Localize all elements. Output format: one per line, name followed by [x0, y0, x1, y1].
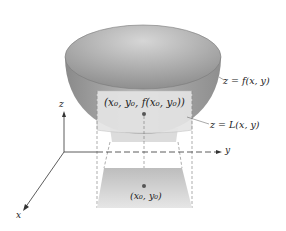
- x-arrow-icon: [23, 204, 29, 211]
- y-axis-label: y: [225, 145, 230, 155]
- y-arrow-icon: [216, 150, 222, 154]
- tangent-plane-label: z = L(x, y): [210, 119, 260, 130]
- x-axis: [25, 152, 64, 208]
- projected-region: [97, 168, 192, 208]
- point-in-domain-label: (x₀, y₀): [130, 190, 162, 201]
- point-on-surface-label: (x₀, y₀, f(x₀, y₀)): [104, 96, 185, 108]
- x-axis-label: x: [16, 210, 21, 220]
- surface-label: z = f(x, y): [223, 75, 270, 86]
- point-in-domain-dot: [142, 184, 146, 188]
- point-on-surface-dot: [142, 112, 146, 116]
- z-arrow-icon: [62, 111, 66, 117]
- z-axis-label: z: [59, 99, 64, 109]
